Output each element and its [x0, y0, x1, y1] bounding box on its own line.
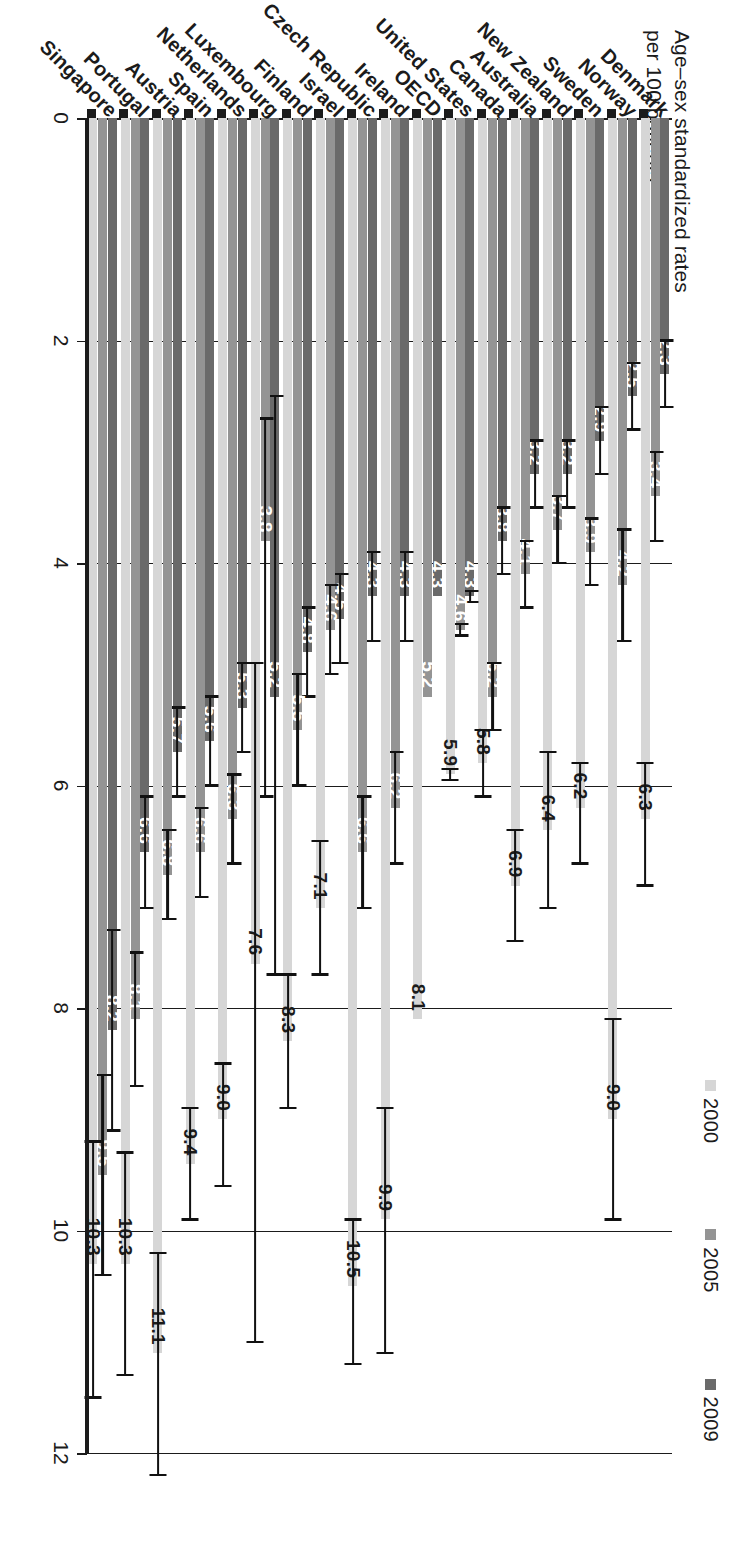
- error-bar-cap-upper: [279, 1107, 296, 1109]
- value-tick-label-2: 2: [49, 335, 73, 347]
- bar-chart-figure: Age–sex standardized rates per 100 patie…: [0, 0, 736, 1546]
- bar-row: 7.6: [251, 118, 260, 1453]
- bar-israel-2000: 7.1: [316, 118, 325, 908]
- bar-row: 2.3: [660, 118, 669, 1453]
- bar-group: 2.54.29.0: [607, 118, 640, 1453]
- bar-row: 5.7: [173, 118, 182, 1453]
- bar-row: 4.2: [618, 118, 627, 1453]
- bar-portugal-2000: 10.3: [121, 118, 130, 1264]
- error-bar-cap-upper: [214, 1185, 231, 1187]
- error-bar: [111, 930, 113, 1130]
- bar-finland-2000: 8.3: [284, 118, 293, 1041]
- bar-row: 6.2: [391, 118, 400, 1453]
- bar-row: 4.1: [521, 118, 530, 1453]
- error-bar: [589, 519, 591, 586]
- error-bar: [352, 1219, 354, 1364]
- bar-row: 9.4: [186, 118, 195, 1453]
- bar-spain-2000: 9.4: [186, 118, 195, 1164]
- bar-row: 6.6: [196, 118, 205, 1453]
- bar-ireland-2000: 9.9: [381, 118, 390, 1219]
- value-tick-label-8: 8: [49, 1002, 73, 1014]
- error-bar: [654, 452, 656, 541]
- bar-row: 6.9: [511, 118, 520, 1453]
- bar-group: 3.24.16.9: [510, 118, 543, 1453]
- bar-row: 5.2: [270, 118, 279, 1453]
- bar-row: 6.3: [641, 118, 650, 1453]
- bar-norway-2009: 2.5: [628, 118, 637, 396]
- bar-australia-2009: 3.2: [530, 118, 539, 474]
- bar-row: 5.2: [423, 118, 432, 1453]
- bar-israel-2005: 4.6: [326, 118, 335, 630]
- error-bar: [144, 797, 146, 908]
- bar-row: 4.5: [335, 118, 344, 1453]
- bar-row: 6.3: [228, 118, 237, 1453]
- error-bar-cap-upper: [604, 1218, 621, 1220]
- value-tick-12: [77, 1453, 87, 1455]
- error-bar: [644, 763, 646, 885]
- bar-group: 4.85.58.3: [282, 118, 315, 1453]
- bar-row: 5.8: [479, 118, 488, 1453]
- error-bar-cap-lower: [539, 751, 556, 753]
- bar-group: 8.29.510.3: [87, 118, 120, 1453]
- value-tick-label-12: 12: [49, 1441, 73, 1464]
- value-tick-label-10: 10: [49, 1219, 73, 1242]
- bar-row: 4.6: [456, 118, 465, 1453]
- value-tick-2: [77, 341, 87, 343]
- bar-oecd-2005: 5.2: [423, 118, 432, 697]
- error-bar: [199, 808, 201, 897]
- bar-finland-2009: 4.8: [303, 118, 312, 652]
- error-bar: [524, 541, 526, 608]
- value-tick-0: [77, 118, 87, 120]
- bar-australia-2000: 6.9: [511, 118, 520, 886]
- bar-new-zealand-2000: 6.4: [544, 118, 553, 830]
- bar-canada-2000: 5.8: [479, 118, 488, 763]
- bar-netherlands-2000: 9.0: [219, 118, 228, 1119]
- error-bar-cap-lower: [637, 762, 654, 764]
- error-bar: [241, 663, 243, 752]
- error-bar: [371, 552, 373, 641]
- gridline-12: [87, 1453, 672, 1454]
- bar-netherlands-2009: 5.3: [238, 118, 247, 708]
- bar-ireland-2005: 6.2: [391, 118, 400, 808]
- bar-row: 8.2: [108, 118, 117, 1453]
- bar-row: 2.5: [628, 118, 637, 1453]
- error-bar: [232, 774, 234, 863]
- error-bar: [264, 418, 266, 796]
- error-bar-cap-upper: [377, 1352, 394, 1354]
- error-bar-cap-upper: [149, 1474, 166, 1476]
- bar-sweden-2009: 2.9: [595, 118, 604, 441]
- error-bar-cap-upper: [117, 1374, 134, 1376]
- error-bar: [306, 608, 308, 697]
- bar-row: 4.6: [326, 118, 335, 1453]
- bar-row: 5.6: [205, 118, 214, 1453]
- error-bar: [222, 1064, 224, 1186]
- legend-item-2009: 2009: [699, 1379, 722, 1442]
- bar-row: 3.2: [563, 118, 572, 1453]
- bar-group: 2.33.46.3: [640, 118, 673, 1453]
- plot-area: 2.33.46.32.54.29.02.93.96.23.23.76.43.24…: [87, 118, 672, 1453]
- error-bar: [482, 730, 484, 797]
- error-bar: [157, 1253, 159, 1476]
- bar-united-states-2000: 5.9: [446, 118, 455, 774]
- error-bar: [176, 708, 178, 797]
- bar-row: 6.6: [140, 118, 149, 1453]
- error-bar: [124, 1153, 126, 1376]
- bar-israel-2009: 4.5: [335, 118, 344, 619]
- error-bar: [579, 763, 581, 863]
- bar-austria-2009: 5.7: [173, 118, 182, 752]
- bar-australia-2005: 4.1: [521, 118, 530, 574]
- bar-group: 6.68.110.3: [120, 118, 153, 1453]
- value-tick-4: [77, 563, 87, 565]
- bar-row: 5.2: [488, 118, 497, 1453]
- error-bar-cap-upper: [572, 862, 589, 864]
- error-bar: [492, 663, 494, 730]
- axis-title-line-1: Age–sex standardized rates: [668, 30, 696, 330]
- bar-denmark-2009: 2.3: [660, 118, 669, 374]
- bar-row: 6.2: [576, 118, 585, 1453]
- bar-group: 4.54.67.1: [315, 118, 348, 1453]
- bar-group: 3.85.25.8: [477, 118, 510, 1453]
- error-bar-cap-lower: [572, 762, 589, 764]
- error-bar: [664, 341, 666, 408]
- bar-portugal-2009: 6.6: [140, 118, 149, 852]
- value-tick-label-6: 6: [49, 780, 73, 792]
